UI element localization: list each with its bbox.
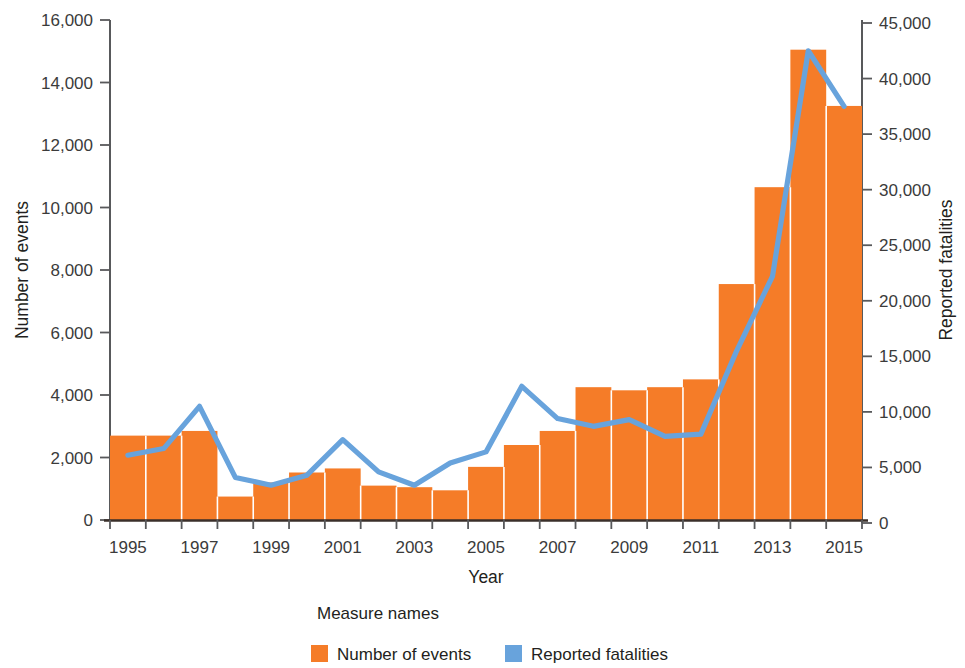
left-y-tick-label: 8,000: [50, 261, 93, 280]
bar[interactable]: [325, 468, 361, 520]
x-tick-label: 2013: [754, 538, 792, 557]
bar[interactable]: [432, 490, 468, 520]
legend-title: Measure names: [317, 604, 439, 623]
legend-swatch-reported-fatalities: [505, 645, 522, 662]
left-y-axis-title: Number of events: [12, 201, 32, 339]
x-axis-tick-labels: 1995199719992001200320052007200920112013…: [109, 538, 863, 557]
bar[interactable]: [253, 483, 289, 521]
right-y-tick-label: 35,000: [879, 125, 931, 144]
x-tick-label: 2007: [539, 538, 577, 557]
left-y-axis: 02,0004,0006,0008,00010,00012,00014,0001…: [12, 11, 110, 530]
bar[interactable]: [826, 106, 862, 520]
x-axis: 1995199719992001200320052007200920112013…: [104, 520, 868, 587]
left-y-tick-label: 16,000: [41, 11, 93, 30]
bar[interactable]: [647, 387, 683, 520]
bar[interactable]: [217, 497, 253, 520]
x-tick-label: 1999: [252, 538, 290, 557]
legend-swatch-number-of-events: [311, 645, 328, 662]
left-y-axis-tick-labels: 02,0004,0006,0008,00010,00012,00014,0001…: [41, 11, 93, 530]
right-y-tick-label: 15,000: [879, 347, 931, 366]
left-y-tick-label: 2,000: [50, 449, 93, 468]
bar[interactable]: [396, 487, 432, 520]
x-tick-label: 2011: [683, 538, 720, 557]
dual-axis-bar-line-chart: 02,0004,0006,0008,00010,00012,00014,0001…: [0, 0, 965, 668]
legend-label-number-of-events: Number of events: [337, 645, 471, 664]
bar[interactable]: [361, 486, 397, 520]
left-y-axis-ticks: [100, 20, 110, 520]
bar[interactable]: [110, 436, 146, 520]
right-y-tick-label: 40,000: [879, 70, 931, 89]
bar[interactable]: [540, 431, 576, 520]
right-y-tick-label: 45,000: [879, 14, 931, 33]
right-y-tick-label: 25,000: [879, 236, 931, 255]
left-y-tick-label: 12,000: [41, 136, 93, 155]
x-tick-label: 1997: [181, 538, 219, 557]
bar[interactable]: [755, 187, 791, 520]
right-y-tick-label: 5,000: [879, 458, 922, 477]
x-axis-title: Year: [468, 567, 504, 587]
bar[interactable]: [468, 467, 504, 520]
x-tick-label: 2003: [395, 538, 433, 557]
left-y-tick-label: 4,000: [50, 386, 93, 405]
left-y-tick-label: 10,000: [41, 199, 93, 218]
x-tick-label: 2005: [467, 538, 505, 557]
right-y-axis-title: Reported fatalities: [936, 199, 956, 340]
bar[interactable]: [182, 431, 218, 520]
right-y-axis-tick-labels: 05,00010,00015,00020,00025,00030,00035,0…: [879, 14, 931, 533]
legend-item-number-of-events[interactable]: Number of events: [311, 645, 471, 664]
legend-item-reported-fatalities[interactable]: Reported fatalities: [505, 645, 668, 664]
legend-label-reported-fatalities: Reported fatalities: [531, 645, 668, 664]
x-tick-label: 2009: [610, 538, 648, 557]
bar[interactable]: [576, 387, 612, 520]
bar[interactable]: [611, 390, 647, 520]
left-y-tick-label: 6,000: [50, 324, 93, 343]
chart-legend: Measure names Number of events Reported …: [311, 604, 668, 664]
right-y-tick-label: 20,000: [879, 292, 931, 311]
right-y-tick-label: 30,000: [879, 181, 931, 200]
x-tick-label: 2015: [825, 538, 863, 557]
chart-container: 02,0004,0006,0008,00010,00012,00014,0001…: [0, 0, 965, 668]
left-y-tick-label: 0: [84, 511, 93, 530]
x-tick-label: 1995: [109, 538, 147, 557]
right-y-tick-label: 10,000: [879, 403, 931, 422]
left-y-tick-label: 14,000: [41, 74, 93, 93]
right-y-axis-ticks: [862, 23, 872, 523]
x-tick-label: 2001: [324, 538, 362, 557]
bar[interactable]: [504, 445, 540, 520]
right-y-tick-label: 0: [879, 514, 888, 533]
right-y-axis: 05,00010,00015,00020,00025,00030,00035,0…: [862, 14, 956, 533]
